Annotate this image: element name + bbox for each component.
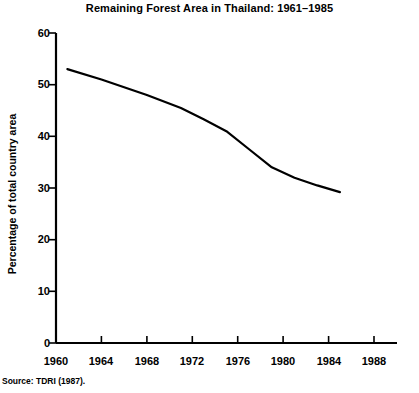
chart-figure: Remaining Forest Area in Thailand: 1961–…: [0, 0, 419, 393]
source-note: Source: TDRI (1987).: [2, 376, 85, 386]
data-series-line: [67, 69, 340, 192]
plot-area: [0, 0, 419, 393]
axis-lines: [56, 33, 397, 343]
